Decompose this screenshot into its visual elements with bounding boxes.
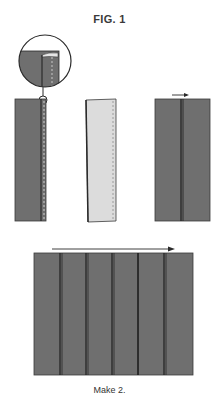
figure-caption: Make 2.	[0, 385, 219, 395]
strip-step-3	[155, 93, 210, 221]
figure-diagram	[0, 0, 219, 413]
magnifier-detail	[15, 35, 71, 104]
strip-step-1	[15, 99, 46, 221]
strip-set-final	[34, 247, 193, 376]
strip-step-2	[86, 99, 116, 222]
